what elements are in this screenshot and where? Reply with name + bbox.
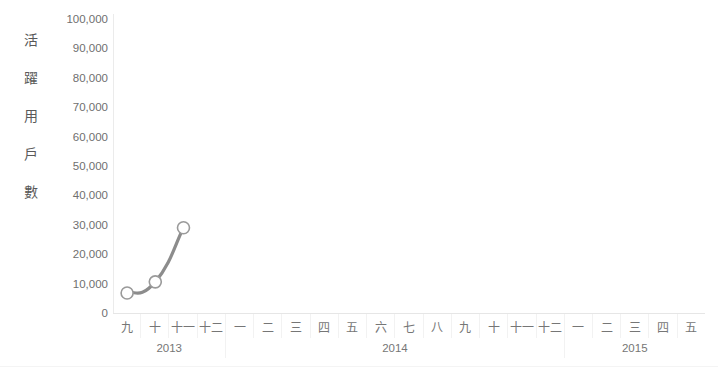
x-axis-month-label: 七 [395,314,423,338]
x-axis-month-label: 十一 [508,314,536,338]
y-axis-tick-label: 10,000 [44,278,108,290]
y-axis-tick-label: 40,000 [44,189,108,201]
x-axis-month-label: 五 [339,314,367,338]
x-axis-year-label: 2014 [226,338,564,358]
y-axis-title: 活 躍 用 戶 數 [20,12,42,202]
y-axis-tick-label: 80,000 [44,72,108,84]
x-axis-month-label: 六 [367,314,395,338]
x-axis-month-label: 十一 [169,314,197,338]
x-axis-year-label: 2015 [565,338,705,358]
y-axis-tick-label: 60,000 [44,131,108,143]
y-axis-tick-label: 0 [44,307,108,319]
x-axis-month-label: 一 [226,314,254,338]
y-axis-title-char-5: 數 [24,184,38,200]
y-axis-tick-label: 100,000 [44,13,108,25]
x-axis-month-label: 九 [113,314,141,338]
x-axis-month-label: 二 [593,314,621,338]
x-axis-month-label: 十 [480,314,508,338]
x-axis-month-label: 九 [452,314,480,338]
x-axis-year-band: 201320142015 [113,338,705,358]
x-axis-month-label: 八 [424,314,452,338]
bottom-divider [0,366,718,367]
x-axis-month-label: 十二 [537,314,565,338]
y-axis-tick-label: 20,000 [44,248,108,260]
x-axis-year-label: 2013 [113,338,226,358]
x-axis-month-label: 三 [621,314,649,338]
x-axis-month-label: 三 [282,314,310,338]
x-axis-month-label: 四 [311,314,339,338]
y-axis-tick-label: 30,000 [44,219,108,231]
x-axis-month-label: 十二 [198,314,226,338]
y-axis-tick-label: 70,000 [44,101,108,113]
y-axis-title-char-4: 戶 [24,146,38,162]
x-axis-month-label: 十 [141,314,169,338]
plot-area [113,14,706,313]
y-axis-tick-labels: 100,00090,00080,00070,00060,00050,00040,… [44,0,108,320]
y-axis-title-char-1: 活 [24,32,38,48]
line-chart: 活 躍 用 戶 數 100,00090,00080,00070,00060,00… [0,0,718,375]
y-axis-tick-label: 50,000 [44,160,108,172]
y-axis-title-char-2: 躍 [24,70,38,86]
x-axis-month-label: 一 [565,314,593,338]
y-axis-title-char-3: 用 [24,108,38,124]
x-axis-month-label: 二 [254,314,282,338]
y-axis-tick-label: 90,000 [44,42,108,54]
x-axis-month-band: 九十十一十二一二三四五六七八九十十一十二一二三四五 [113,314,705,338]
x-axis-month-label: 四 [649,314,677,338]
x-axis-month-label: 五 [678,314,705,338]
